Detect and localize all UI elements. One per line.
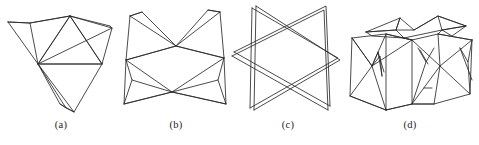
wireframe-edge: [130, 12, 220, 46]
wireframe-edge: [460, 40, 472, 62]
wireframe-edge: [60, 104, 74, 112]
panel-d-caption: (d): [342, 118, 478, 132]
wireframe-edge: [404, 38, 412, 40]
wireframe-edge: [440, 40, 472, 66]
figure-container: (a) (b) (c) (d): [0, 0, 479, 145]
wireframe-edge: [366, 16, 466, 32]
panel-a-drawing: [2, 0, 120, 118]
wireframe-edge: [38, 16, 102, 64]
wireframe-edge: [234, 52, 330, 106]
wireframe-edge: [438, 16, 466, 30]
wireframe-edge: [350, 96, 386, 110]
wireframe-edge: [350, 38, 372, 96]
wireframe-edge: [434, 66, 440, 104]
wireframe-edge: [420, 50, 428, 64]
figure-panel-c: (c): [230, 0, 346, 145]
panel-d-drawing: [342, 0, 478, 118]
wireframe-edge: [412, 66, 440, 104]
panel-b-drawing: [120, 0, 232, 118]
wireframe-edge: [386, 94, 470, 110]
panel-c-caption: (c): [230, 118, 346, 132]
figure-panel-a: (a): [2, 0, 120, 145]
wireframe-edge: [468, 62, 470, 94]
wireframe-edge: [70, 16, 112, 64]
wireframe-edge: [442, 26, 466, 36]
figure-panel-d: (d): [342, 0, 478, 145]
wireframe-edge: [124, 92, 226, 104]
wireframe-edge: [208, 10, 220, 12]
wireframe-edge: [38, 64, 102, 112]
wireframe-edge: [250, 8, 252, 108]
wireframe-edge: [8, 16, 70, 64]
wireframe-edge: [350, 38, 386, 110]
panel-a-caption: (a): [2, 118, 120, 132]
wireframe-edge: [254, 6, 256, 110]
figure-panel-b: (b): [120, 0, 232, 145]
wireframe-edge: [372, 66, 386, 110]
panel-c-drawing: [230, 0, 346, 118]
wireframe-edge: [130, 12, 176, 46]
wireframe-edge: [412, 62, 426, 104]
panel-b-caption: (b): [120, 118, 232, 132]
wireframe-edge: [30, 16, 70, 23]
wireframe-edge: [234, 6, 330, 106]
wireframe-edge: [414, 16, 442, 30]
wireframe-edge: [126, 58, 224, 92]
wireframe-edge: [386, 40, 412, 110]
wireframe-edge: [460, 48, 472, 80]
wireframe-edge: [232, 56, 328, 110]
wireframe-edge: [126, 46, 224, 60]
wireframe-edge: [438, 34, 472, 40]
wireframe-edge: [130, 12, 142, 16]
